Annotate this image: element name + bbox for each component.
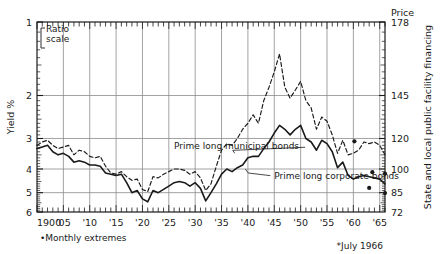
- xtick-label: '10: [82, 217, 97, 228]
- ytick-label-right: 178: [391, 17, 409, 28]
- yield-price-line-chart: Prime long municipal bondsPrime long cor…: [0, 0, 442, 254]
- ytick-label-right: 100: [391, 164, 409, 175]
- ytick-label-right: 145: [391, 90, 409, 101]
- xtick-label: '15: [109, 217, 124, 228]
- ytick-label-right: 120: [391, 133, 409, 144]
- monthly-extreme-marker: [367, 186, 371, 190]
- xtick-label: '20: [135, 217, 150, 228]
- y-axis-title: Yield %: [5, 100, 16, 136]
- xtick-label: '40: [241, 217, 256, 228]
- y-axis-right-title: State and local public facility financin…: [422, 25, 433, 209]
- ytick-label-right: 85: [391, 187, 403, 198]
- ytick-label-left: 1: [26, 17, 32, 28]
- xtick-label: '60: [346, 217, 361, 228]
- ytick-label-left: 4: [26, 164, 32, 175]
- ratio-scale-note-line2: scale: [46, 34, 70, 44]
- ratio-scale-note-line1: Ratio: [46, 24, 70, 34]
- series-annotation-municipal: Prime long municipal bonds: [174, 141, 299, 151]
- price-axis-header: Price: [391, 7, 414, 18]
- footnote-monthly-extremes: •Monthly extremes: [40, 233, 127, 243]
- xtick-label: '05: [56, 217, 71, 228]
- xtick-label: '55: [320, 217, 335, 228]
- xtick-label: '50: [293, 217, 308, 228]
- ytick-label-left: 3: [26, 133, 32, 144]
- footnote-july-1966: *July 1966: [337, 241, 384, 251]
- ytick-label-left: 5: [26, 187, 32, 198]
- ytick-label-left: 6: [26, 207, 32, 218]
- xtick-label: '25: [161, 217, 176, 228]
- xtick-label: '35: [214, 217, 229, 228]
- ytick-label-left: 2: [26, 90, 32, 101]
- xtick-label: '65: [372, 217, 387, 228]
- xtick-label: '45: [267, 217, 282, 228]
- ytick-label-right: 72: [391, 207, 403, 218]
- xtick-label: '30: [188, 217, 203, 228]
- monthly-extreme-marker: [352, 139, 356, 143]
- series-annotation-corporate: Prime long corporate bonds: [274, 171, 399, 181]
- monthly-extreme-marker: [383, 191, 387, 195]
- chart-container: Prime long municipal bondsPrime long cor…: [0, 0, 442, 254]
